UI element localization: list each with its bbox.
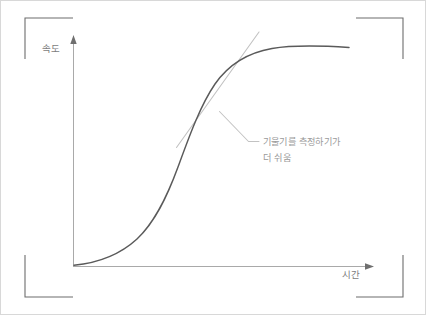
annotation-text-line-1: 기울기를 측정하기가	[263, 136, 341, 147]
annotation-text-line-2: 더 쉬움	[263, 152, 291, 163]
figure-container: 속도 시간 기울기를 측정하기가 더 쉬움	[0, 0, 426, 315]
corner-bracket-top-right-icon	[356, 18, 403, 59]
arrow-up-icon	[70, 35, 76, 44]
corner-bracket-bottom-left-icon	[25, 255, 73, 297]
x-axis-label: 시간	[342, 269, 361, 280]
annotation-leader-line-icon	[220, 112, 260, 142]
speed-time-curve	[74, 46, 349, 265]
corner-bracket-bottom-right-icon	[356, 255, 403, 297]
slope-secant-line	[177, 32, 260, 148]
arrow-right-icon	[365, 263, 374, 269]
chart-canvas: 속도 시간 기울기를 측정하기가 더 쉬움	[1, 1, 426, 315]
y-axis-label: 속도	[42, 43, 61, 54]
